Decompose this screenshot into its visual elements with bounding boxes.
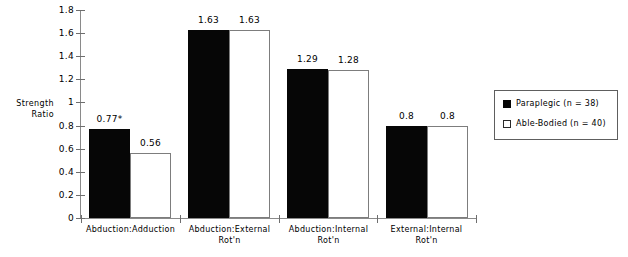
bar-able-bodied [130,153,171,218]
x-tick-mark [476,215,477,223]
category-label-line1: Abduction:Internal [289,225,368,234]
y-tick-mark [76,172,85,173]
bar-able-bodied [427,126,468,218]
category-label-line1: Abduction:Adduction [86,225,175,234]
bar-value-label: 1.63 [221,16,278,25]
y-tick-mark [76,56,85,57]
x-tick-mark [279,215,280,223]
y-tick-mark [76,195,85,196]
y-tick-label: 1.4 [50,52,74,61]
bar-paraplegic [188,30,229,218]
category-label: Abduction:Adduction [73,224,188,235]
y-tick-mark [76,149,85,150]
bar-value-label: 0.77* [81,115,138,124]
y-tick-label: 0.2 [50,191,74,200]
legend: Paraplegic (n = 38) Able-Bodied (n = 40) [494,90,618,140]
x-axis-line [80,218,476,219]
y-tick-label: 1.6 [50,29,74,38]
category-label: External:InternalRot'n [369,224,484,246]
y-tick-mark [76,10,85,11]
legend-swatch-icon-dark [503,100,511,108]
x-tick-mark [377,215,378,223]
y-tick-mark [76,79,85,80]
legend-item-label: Paraplegic (n = 38) [516,99,599,108]
y-tick-label: 0.8 [50,122,74,131]
bar-value-label: 0.56 [122,139,179,148]
category-label-line1: Abduction:External [189,225,271,234]
bar-able-bodied [229,30,270,218]
y-axis-title-line2: Ratio [31,110,54,119]
legend-item-paraplegic: Paraplegic (n = 38) [503,99,599,108]
bar-value-label: 1.28 [320,56,377,65]
y-tick-label: 0.4 [50,168,74,177]
category-label-line2: Rot'n [172,235,287,246]
y-tick-label: 0 [50,214,74,223]
y-tick-label: 1.8 [50,6,74,15]
y-axis-title: Strength Ratio [2,98,54,120]
category-label: Abduction:ExternalRot'n [172,224,287,246]
legend-swatch-icon-light [503,120,511,128]
bar-paraplegic [287,69,328,218]
bar-chart: Strength Ratio 00.20.40.60.811.21.41.61.… [0,0,628,257]
bar-able-bodied [328,70,369,218]
x-tick-mark [81,215,82,223]
y-tick-mark [76,102,85,103]
y-tick-label: 1.2 [50,75,74,84]
category-label-line1: External:Internal [391,225,463,234]
y-axis-title-line1: Strength [16,99,54,108]
y-tick-mark [76,33,85,34]
legend-item-able-bodied: Able-Bodied (n = 40) [503,119,606,128]
y-tick-label: 1 [50,98,74,107]
y-tick-mark [76,126,85,127]
x-tick-mark [180,215,181,223]
bar-paraplegic [386,126,427,218]
bar-value-label: 0.8 [419,112,476,121]
y-tick-label: 0.6 [50,145,74,154]
legend-item-label: Able-Bodied (n = 40) [516,119,606,128]
category-label-line2: Rot'n [369,235,484,246]
